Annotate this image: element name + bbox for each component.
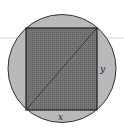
label-y: y: [99, 64, 106, 74]
label-x: x: [58, 112, 63, 122]
diagram-canvas: y x: [0, 0, 124, 136]
